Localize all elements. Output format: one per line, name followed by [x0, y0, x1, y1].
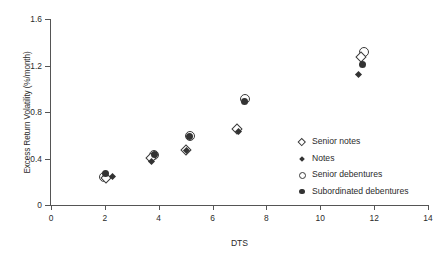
y-tick-label: 0.8	[10, 107, 42, 117]
x-tick	[213, 206, 214, 210]
x-tick-label: 8	[253, 213, 279, 223]
x-tick	[105, 206, 106, 210]
x-tick	[320, 206, 321, 210]
legend-marker-icon	[299, 172, 306, 179]
x-tick	[374, 206, 375, 210]
x-axis-title: DTS	[51, 238, 428, 248]
legend-item: Senior notes	[300, 135, 440, 152]
legend-label: Senior notes	[312, 136, 360, 146]
y-tick-label: 1.2	[10, 61, 42, 71]
legend-marker-icon	[299, 156, 305, 162]
x-tick	[51, 206, 52, 210]
legend-label: Notes	[312, 153, 334, 163]
x-tick-label: 2	[92, 213, 118, 223]
x-tick-label: 4	[146, 213, 172, 223]
y-tick	[45, 159, 50, 160]
legend-label: Senior debentures	[312, 169, 382, 179]
legend-label: Subordinated debentures	[312, 186, 409, 196]
chart-legend: Senior notesNotesSenior debenturesSubord…	[300, 135, 440, 201]
legend-marker-icon	[298, 138, 306, 146]
y-tick	[45, 66, 50, 67]
x-tick-label: 14	[415, 213, 441, 223]
x-tick	[159, 206, 160, 210]
y-tick-label: 1.6	[10, 14, 42, 24]
y-tick	[45, 205, 50, 206]
y-tick-label: 0.4	[10, 154, 42, 164]
y-tick	[45, 112, 50, 113]
legend-item: Notes	[300, 152, 440, 169]
x-tick	[266, 206, 267, 210]
x-tick-label: 10	[307, 213, 333, 223]
y-tick-label: 0	[10, 200, 42, 210]
legend-marker-icon	[299, 189, 305, 195]
legend-item: Senior debentures	[300, 168, 440, 185]
x-tick	[428, 206, 429, 210]
legend-item: Subordinated debentures	[300, 185, 440, 202]
x-tick-label: 0	[38, 213, 64, 223]
x-tick-label: 12	[361, 213, 387, 223]
x-tick-label: 6	[200, 213, 226, 223]
data-point	[359, 61, 366, 68]
x-axis-line	[50, 205, 429, 206]
y-tick	[45, 19, 50, 20]
scatter-chart: Excess Return Volatility (%/month) 00.40…	[0, 0, 443, 259]
